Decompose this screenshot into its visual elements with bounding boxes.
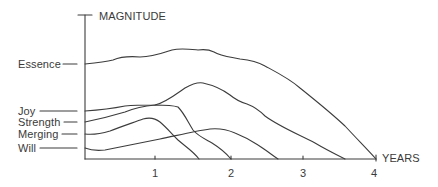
- x-tick-label-1: 1: [152, 168, 158, 179]
- life-phases-chart: MAGNITUDE YEARS Essence Joy Strength Mer…: [0, 0, 438, 187]
- series-label-will: Will: [18, 143, 36, 154]
- joy-curve: [85, 83, 345, 159]
- series-label-merging: Merging: [18, 129, 58, 140]
- x-tick-label-2: 2: [228, 168, 234, 179]
- essence-curve: [85, 49, 376, 159]
- x-tick-label-3: 3: [300, 168, 306, 179]
- chart-plot: [0, 0, 438, 187]
- merging-curve: [85, 118, 199, 159]
- series-label-essence: Essence: [18, 59, 61, 70]
- series-label-strength: Strength: [18, 117, 60, 128]
- x-tick-label-4: 4: [371, 168, 377, 179]
- will-curve: [85, 129, 278, 159]
- y-axis-title: MAGNITUDE: [99, 11, 166, 22]
- x-axis-title: YEARS: [382, 153, 420, 164]
